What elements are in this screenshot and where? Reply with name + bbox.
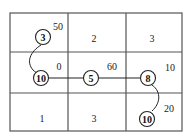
corner-value-r1c2: 10 [165,62,175,73]
node-5: 5 [84,71,99,86]
corner-value-r1c1: 60 [107,61,117,72]
cell-label-r2c0: 1 [40,113,45,124]
node-10-left: 10 [34,71,49,86]
node-label: 8 [146,73,151,84]
corner-value-r0c0: 50 [53,21,63,32]
edge-3-to-10-curve [30,45,41,73]
node-label: 3 [41,32,46,43]
corner-values: 50 0 60 10 20 [53,21,175,114]
node-3: 3 [36,30,51,45]
cell-label-r2c1: 3 [92,113,97,124]
node-label: 5 [89,73,94,84]
node-label: 10 [142,114,152,125]
corner-value-r2c2: 20 [164,103,174,114]
node-8: 8 [141,71,156,86]
node-label: 10 [36,73,46,84]
cell-label-r0c2: 3 [150,33,155,44]
corner-value-r1c0: 0 [57,61,62,72]
cell-label-r0c1: 2 [92,33,97,44]
grid-path-diagram: 2 3 1 3 50 0 60 10 20 3 10 5 8 10 [0,0,188,137]
edge-8-to-10-curve [152,85,159,111]
node-10-bottom: 10 [140,112,155,127]
